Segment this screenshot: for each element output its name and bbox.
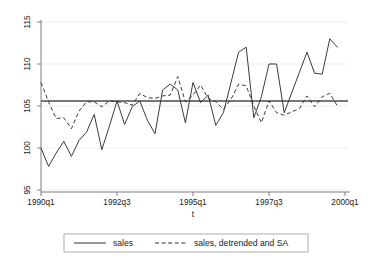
x-tick-label-1990q1: 1990q1	[27, 198, 55, 207]
x-tick-label-1997q3: 1997q3	[255, 198, 283, 207]
x-tick-label-1995q1: 1995q1	[179, 198, 207, 207]
series-sales-line	[41, 39, 337, 167]
legend-label-sales-detrended: sales, detrended and SA	[194, 238, 288, 248]
chart-figure: 115 110 105 100 95 1990q1 1992q3 1995q1 …	[0, 0, 372, 264]
x-tick-label-1992q3: 1992q3	[103, 198, 131, 207]
legend-label-sales: sales	[113, 238, 133, 248]
y-tick-label-105: 105	[23, 99, 32, 113]
x-tick-label-2000q1: 2000q1	[331, 198, 359, 207]
x-axis: 1990q1 1992q3 1995q1 1997q3 2000q1 t	[27, 192, 359, 219]
x-axis-title: t	[192, 210, 195, 219]
legend: sales sales, detrended and SA	[64, 234, 308, 252]
y-tick-label-100: 100	[23, 141, 32, 155]
y-tick-label-95: 95	[23, 185, 32, 195]
gridlines	[41, 22, 348, 190]
y-tick-label-115: 115	[23, 15, 32, 28]
y-tick-label-110: 110	[23, 57, 32, 70]
y-axis: 115 110 105 100 95	[23, 15, 41, 195]
line-chart: 115 110 105 100 95 1990q1 1992q3 1995q1 …	[0, 0, 372, 264]
